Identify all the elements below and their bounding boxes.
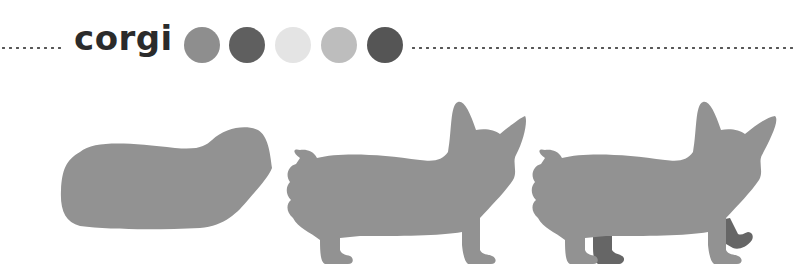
body-blob-shape [61,127,272,229]
corgi-illustrations [0,0,794,278]
back-leg-left [593,232,624,264]
corgi-silhouette [287,102,526,264]
corgi-with-back-legs [532,102,777,264]
